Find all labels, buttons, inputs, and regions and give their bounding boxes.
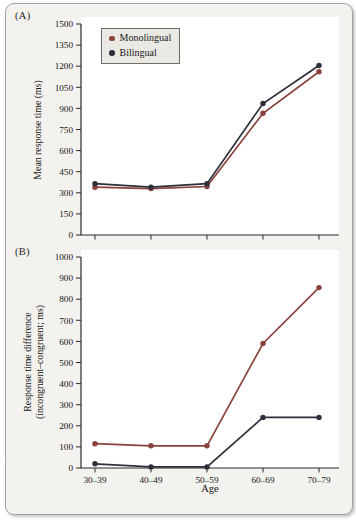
legend-label-bilingual: Bilingual [120, 46, 157, 61]
data-point-bilingual [316, 63, 321, 68]
y-tick-label: 700 [59, 316, 73, 326]
figure-page: 0150300450600750900105012001350150001002… [0, 0, 356, 520]
data-point-bilingual [92, 461, 97, 466]
y-tick-label: 900 [59, 104, 73, 114]
panel-label-b: (B) [15, 246, 30, 257]
y-tick-label: 1350 [55, 40, 74, 50]
y-tick-label: 0 [68, 230, 73, 240]
data-point-bilingual [260, 415, 265, 420]
y-tick-label: 600 [59, 146, 73, 156]
y-tick-label: 100 [59, 442, 73, 452]
y-tick-label: 900 [59, 273, 73, 283]
chart-a: 01503004506007509001050120013501500 [55, 17, 339, 240]
chart-b-y-axis-title-line1: Response time difference [22, 305, 34, 419]
data-point-bilingual [148, 464, 153, 469]
data-point-bilingual [92, 181, 97, 186]
y-tick-label: 500 [59, 358, 73, 368]
chart-b-y-axis-title-line2: (incongruent–congruent; ms) [33, 305, 45, 419]
y-tick-label: 1200 [55, 61, 74, 71]
y-tick-label: 150 [59, 209, 73, 219]
chart-b-x-axis-title: Age [81, 483, 339, 494]
data-point-monolingual [260, 111, 265, 116]
bilingual-marker-icon [109, 50, 115, 56]
y-tick-label: 750 [59, 125, 73, 135]
data-point-bilingual [260, 101, 265, 106]
data-point-monolingual [92, 441, 97, 446]
data-point-monolingual [260, 341, 265, 346]
panel-label-a: (A) [15, 10, 30, 21]
y-tick-label: 400 [59, 379, 73, 389]
chart-a-y-axis-title: Mean response time (ms) [32, 80, 43, 179]
y-tick-label: 300 [59, 400, 73, 410]
charts-canvas: 0150300450600750900105012001350150001002… [0, 0, 356, 520]
y-tick-label: 800 [59, 294, 73, 304]
legend: Monolingual Bilingual [101, 28, 180, 64]
y-tick-label: 1000 [55, 252, 74, 262]
y-tick-label: 1050 [55, 83, 74, 93]
data-point-bilingual [204, 181, 209, 186]
legend-item-monolingual: Monolingual [109, 31, 171, 46]
data-point-monolingual [316, 285, 321, 290]
legend-label-monolingual: Monolingual [120, 31, 172, 46]
y-tick-label: 300 [59, 188, 73, 198]
data-point-monolingual [316, 69, 321, 74]
y-tick-label: 450 [59, 167, 73, 177]
plot-area [81, 250, 339, 468]
chart-b: 0100200300400500600700800900100030–3940–… [55, 250, 339, 485]
data-point-bilingual [204, 464, 209, 469]
data-point-monolingual [148, 443, 153, 448]
y-tick-label: 200 [59, 421, 73, 431]
data-point-bilingual [148, 185, 153, 190]
chart-b-y-axis-title: Response time difference (incongruent–co… [22, 305, 45, 419]
monolingual-marker-icon [109, 36, 115, 42]
data-point-monolingual [204, 443, 209, 448]
y-tick-label: 600 [59, 337, 73, 347]
y-tick-label: 0 [68, 463, 73, 473]
data-point-bilingual [316, 415, 321, 420]
y-tick-label: 1500 [55, 19, 74, 29]
legend-item-bilingual: Bilingual [109, 46, 171, 61]
